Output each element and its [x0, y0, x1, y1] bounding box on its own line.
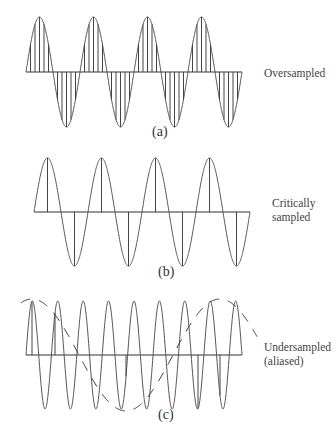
- caption-b: (b): [158, 264, 174, 280]
- label-oversampled: Oversampled: [264, 66, 325, 80]
- label-critically: Critically: [272, 196, 315, 210]
- label-undersampled: Undersampled: [264, 340, 331, 354]
- label-aliased: (aliased): [264, 354, 304, 368]
- caption-c: (c): [158, 407, 174, 423]
- label-sampled: sampled: [272, 210, 310, 224]
- caption-a: (a): [152, 124, 168, 140]
